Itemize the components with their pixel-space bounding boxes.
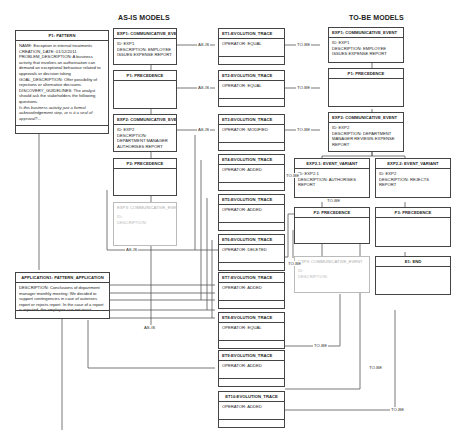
trace-et6-operator: OPERATOR: DELETED xyxy=(219,245,284,255)
to-be-exp21-description: DESCRIPTION: AUTHORISES REPORT xyxy=(298,177,366,188)
to-be-p3-box[interactable]: P3: PRECEDENCE xyxy=(375,207,451,247)
as-is-label-et1: AS-IS xyxy=(197,42,210,47)
trace-et5[interactable]: ET5:EVOLUTION_TRACE OPERATOR: ADDED xyxy=(218,194,285,231)
to-be-heading: TO-BE MODELS xyxy=(349,14,404,21)
as-is-label-p2: AS-IS xyxy=(125,247,138,252)
trace-et10-title: ET10:EVOLUTION_TRACE xyxy=(219,392,284,402)
trace-et9-title: ET9:EVOLUTION_TRACE xyxy=(219,351,284,361)
to-be-exp2-title: EXP2: COMMUNICATIVE_EVENT xyxy=(329,113,403,123)
trace-et2-operator: OPERATOR: EQUAL xyxy=(219,81,284,91)
trace-et6-footer xyxy=(219,262,284,270)
trace-et8-title: ET8:EVOLUTION_TRACE xyxy=(219,313,284,323)
to-be-e1-box[interactable]: E1: END xyxy=(375,256,451,295)
trace-et7-footer xyxy=(219,300,284,308)
as-is-exp3-box[interactable]: EXP3: COMMUNICATIVE_EVENT ID: DESCRIPTIO… xyxy=(113,202,177,246)
to-be-label-p2: TO-BE xyxy=(326,198,341,203)
as-is-exp2-description: DESCRIPTION: DEPARTMENT MANAGER AUTHORIS… xyxy=(117,133,173,150)
trace-et3-operator: OPERATOR: MODIFIED xyxy=(219,125,284,135)
as-is-p1-title: P1: PRECEDENCE xyxy=(114,71,176,81)
pattern-question: Is this business activity just a formal … xyxy=(19,105,105,122)
trace-et5-footer xyxy=(219,222,284,230)
trace-et1-footer xyxy=(219,56,284,64)
trace-et7-title: ET7:EVOLUTION_TRACE xyxy=(219,273,284,283)
application-footer xyxy=(16,310,109,318)
to-be-exp22-box[interactable]: EXP2.2: EVENT_VARIANT ID: EXP2 DESCRIPTI… xyxy=(375,158,451,198)
trace-et1[interactable]: ET1:EVOLUTION_TRACE OPERATOR: EQUAL xyxy=(218,28,285,65)
to-be-p3-title: P3: PRECEDENCE xyxy=(376,208,450,218)
trace-et8-footer xyxy=(219,340,284,348)
to-be-exp21-title: EXP2.1: EVENT_VARIANT xyxy=(295,159,369,169)
pattern-discovery-guidelines: DISCOVERY_GUIDELINES: The analyst should… xyxy=(19,88,105,105)
to-be-label-et2: TO-BE xyxy=(296,85,311,90)
pattern-problem-description: PROBLEM_DESCRIPTION: A business activity… xyxy=(19,54,105,76)
trace-et2[interactable]: ET2:EVOLUTION_TRACE OPERATOR: EQUAL xyxy=(218,70,285,107)
trace-et8[interactable]: ET8:EVOLUTION_TRACE OPERATOR: EQUAL xyxy=(218,312,285,349)
to-be-p1-title: P1: PRECEDENCE xyxy=(329,69,403,79)
trace-et3[interactable]: ET3:EVOLUTION_TRACE OPERATOR: MODIFIED xyxy=(218,114,285,151)
to-be-exp2-description: DESCRIPTION: DEPARTMENT MANAGER REVIEWS … xyxy=(332,131,400,148)
to-be-p1-box[interactable]: P1: PRECEDENCE xyxy=(328,68,404,107)
pattern-goal-description: GOAL_DESCRIPTION: Offer possibility of r… xyxy=(19,77,105,88)
as-is-exp1-box[interactable]: EXP1: COMMUNICATIVE_EVENT ID: EXP1 DESCR… xyxy=(113,28,177,65)
as-is-label-et2: AS-IS xyxy=(197,85,210,90)
as-is-exp2-box[interactable]: EXP2: COMMUNICATIVE_EVENT ID: EXP2 DESCR… xyxy=(113,114,177,152)
application-box[interactable]: APPLICATION1: PATTERN_APPLICATION DESCRI… xyxy=(15,272,110,319)
pattern-box[interactable]: P1: PATTERN NAME: Exception in internal … xyxy=(15,30,109,134)
trace-et10[interactable]: ET10:EVOLUTION_TRACE OPERATOR: ADDED xyxy=(218,391,285,428)
trace-et7-operator: OPERATOR: ADDED xyxy=(219,283,284,293)
trace-et2-footer xyxy=(219,98,284,106)
trace-et5-title: ET5:EVOLUTION_TRACE xyxy=(219,195,284,205)
trace-et7[interactable]: ET7:EVOLUTION_TRACE OPERATOR: ADDED xyxy=(218,272,285,309)
to-be-label-et3: TO-BE xyxy=(296,127,311,132)
to-be-e1-title: E1: END xyxy=(376,257,450,267)
trace-et3-title: ET3:EVOLUTION_TRACE xyxy=(219,115,284,125)
trace-et10-footer xyxy=(219,419,284,427)
trace-et9-operator: OPERATOR: ADDED xyxy=(219,361,284,371)
to-be-exp22-title: EXP2.2: EVENT_VARIANT xyxy=(376,159,450,169)
to-be-label-exp3: TO-BE xyxy=(287,261,302,266)
to-be-label-et9: TO-BE xyxy=(368,365,383,370)
as-is-exp1-title: EXP1: COMMUNICATIVE_EVENT xyxy=(114,29,176,39)
trace-et2-title: ET2:EVOLUTION_TRACE xyxy=(219,71,284,81)
trace-et10-operator: OPERATOR: ADDED xyxy=(219,402,284,412)
to-be-exp21-box[interactable]: EXP2.1: EVENT_VARIANT ID: EXP2.1 DESCRIP… xyxy=(294,158,370,198)
to-be-exp1-title: EXP1: COMMUNICATIVE_EVENT xyxy=(329,28,403,38)
to-be-exp1-box[interactable]: EXP1: COMMUNICATIVE_EVENT ID: EXP1 DESCR… xyxy=(328,27,404,63)
application-title: APPLICATION1: PATTERN_APPLICATION xyxy=(16,273,109,283)
as-is-p2-title: P2: PRECEDENCE xyxy=(114,159,176,169)
trace-et1-title: ET1:EVOLUTION_TRACE xyxy=(219,29,284,39)
trace-et9-footer xyxy=(219,378,284,386)
trace-et3-footer xyxy=(219,142,284,150)
to-be-exp3-title: EXP3: COMMUNICATIVE_EVENT xyxy=(295,257,369,266)
to-be-label-et1: TO-BE xyxy=(296,42,311,47)
to-be-exp1-description: DESCRIPTION: EMPLOYEE ISSUES EXPENSE REP… xyxy=(332,46,400,57)
to-be-exp3-box[interactable]: EXP3: COMMUNICATIVE_EVENT ID: DESCRIPTIO… xyxy=(294,256,370,293)
to-be-exp2-box[interactable]: EXP2: COMMUNICATIVE_EVENT ID: EXP2 DESCR… xyxy=(328,112,404,152)
trace-et4-title: ET4:EVOLUTION_TRACE xyxy=(219,155,284,165)
as-is-label-app: AS-IS xyxy=(143,325,156,330)
as-is-exp3-title: EXP3: COMMUNICATIVE_EVENT xyxy=(114,203,176,212)
to-be-p2-box[interactable]: P2: PRECEDENCE xyxy=(294,207,370,244)
trace-et8-operator: OPERATOR: EQUAL xyxy=(219,323,284,333)
pattern-body: NAME: Exception in internal treatments C… xyxy=(16,41,108,123)
pattern-title: P1: PATTERN xyxy=(16,31,108,41)
pattern-footer xyxy=(16,125,108,133)
to-be-label-et4: TO-BE xyxy=(285,173,300,178)
trace-et6[interactable]: ET6:EVOLUTION_TRACE OPERATOR: DELETED xyxy=(218,234,285,271)
trace-et1-operator: OPERATOR: EQUAL xyxy=(219,39,284,49)
as-is-heading: AS-IS MODELS xyxy=(118,14,170,21)
as-is-exp1-description: DESCRIPTION: EMPLOYEE ISSUES EXPENSE REP… xyxy=(117,47,173,58)
as-is-p2-box[interactable]: P2: PRECEDENCE xyxy=(113,158,177,196)
trace-et4[interactable]: ET4:EVOLUTION_TRACE OPERATOR: ADDED xyxy=(218,154,285,191)
as-is-exp2-title: EXP2: COMMUNICATIVE_EVENT xyxy=(114,115,176,125)
trace-et5-operator: OPERATOR: ADDED xyxy=(219,205,284,215)
as-is-p1-box[interactable]: P1: PRECEDENCE xyxy=(113,70,177,109)
to-be-exp3-description: DESCRIPTION: xyxy=(298,274,366,280)
as-is-exp3-description: DESCRIPTION: xyxy=(117,220,173,226)
to-be-exp22-description: DESCRIPTION: REJECTS REPORT xyxy=(379,177,447,188)
as-is-label-et3: AS-IS xyxy=(197,127,210,132)
trace-et6-title: ET6:EVOLUTION_TRACE xyxy=(219,235,284,245)
trace-et4-footer xyxy=(219,182,284,190)
to-be-label-et8: TO-BE xyxy=(313,343,328,348)
trace-et9[interactable]: ET9:EVOLUTION_TRACE OPERATOR: ADDED xyxy=(218,350,285,387)
